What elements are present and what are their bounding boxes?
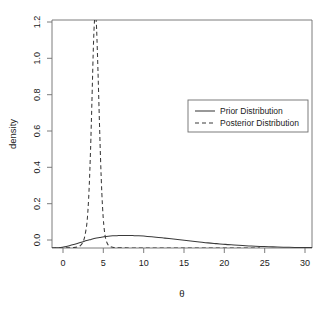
x-axis-title: θ	[179, 288, 184, 299]
y-tick-label: 0.6	[32, 125, 42, 138]
y-axis-tick-labels: 0.0 0.2 0.4 0.6 0.8 1.0 1.2	[32, 16, 42, 247]
x-tick-label: 5	[101, 258, 106, 268]
x-tick-label: 30	[300, 258, 310, 268]
x-tick-label: 20	[219, 258, 229, 268]
x-tick-label: 25	[260, 258, 270, 268]
density-plot-figure: 0.0 0.2 0.4 0.6 0.8 1.0 1.2 0 5 10 15 20…	[0, 0, 325, 310]
y-tick-label: 0.0	[32, 234, 42, 247]
x-axis-tick-labels: 0 5 10 15 20 25 30	[60, 258, 310, 268]
x-tick-label: 0	[60, 258, 65, 268]
y-tick-label: 0.4	[32, 161, 42, 174]
x-tick-label: 15	[179, 258, 189, 268]
x-axis-ticks	[63, 248, 305, 253]
legend-label-prior: Prior Distribution	[220, 106, 283, 116]
x-tick-label: 10	[139, 258, 149, 268]
y-axis-title: density	[7, 119, 18, 149]
y-tick-label: 1.2	[32, 16, 42, 29]
y-tick-label: 0.8	[32, 88, 42, 101]
y-tick-label: 0.2	[32, 197, 42, 210]
chart-legend[interactable]: Prior Distribution Posterior Distributio…	[188, 100, 308, 132]
y-tick-label: 1.0	[32, 52, 42, 65]
legend-label-posterior: Posterior Distribution	[220, 118, 299, 128]
y-axis-ticks	[47, 22, 52, 240]
plot-canvas: 0.0 0.2 0.4 0.6 0.8 1.0 1.2 0 5 10 15 20…	[0, 0, 325, 310]
